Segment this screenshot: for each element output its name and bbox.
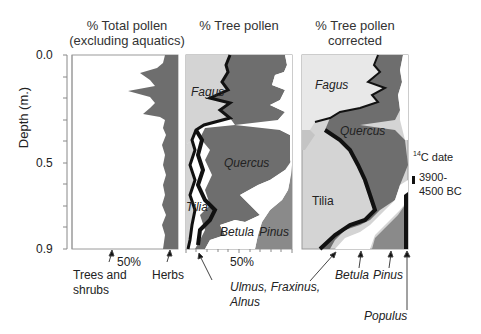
label-tilia-p2: Tilia (186, 200, 208, 214)
trees-line1: Trees and (73, 268, 127, 283)
label-herbs: Herbs (152, 268, 184, 282)
panel3-title: % Tree pollen corrected (298, 18, 412, 48)
panel-total-pollen (72, 55, 178, 249)
panel1-title-line2: (excluding aquatics) (62, 33, 192, 48)
y-tick-0: 0.0 (36, 48, 53, 62)
label-trees-shrubs: Trees and shrubs (73, 268, 127, 298)
x-label-50-panel2: 50% (230, 255, 254, 269)
y-axis-label: Depth (m.) (16, 83, 31, 153)
label-fagus-p2: Fagus (191, 85, 224, 99)
c14-text: C date (421, 151, 453, 163)
label-tilia-p3: Tilia (312, 194, 334, 208)
x-label-50-panel1: 50% (117, 255, 141, 269)
label-quercus-p2: Quercus (224, 156, 269, 170)
label-betula-bottom: Betula (335, 268, 369, 282)
label-fagus-p3: Fagus (315, 78, 348, 92)
panel3-title-line1: % Tree pollen (298, 18, 412, 33)
trees-line2: shrubs (73, 283, 127, 298)
y-tick-09: 0.9 (36, 242, 53, 256)
panel2-title: % Tree pollen (186, 18, 292, 33)
c14-superscript: 14 (413, 150, 421, 157)
date-marker (412, 176, 415, 184)
depth-axis (63, 55, 67, 249)
label-ulmus-fraxinus-alnus: Ulmus, Fraxinus, Alnus (230, 280, 320, 310)
panel1-title-line1: % Total pollen (62, 18, 192, 33)
ulmus-line2: Alnus (230, 295, 320, 310)
date-range-line2: 4500 BC (419, 184, 462, 198)
panel3-title-line2: corrected (298, 33, 412, 48)
panel1-title: % Total pollen (excluding aquatics) (62, 18, 192, 48)
c14-date-label: 14C date (413, 150, 453, 163)
label-betula-p2: Betula (220, 225, 254, 239)
label-quercus-p3: Quercus (340, 124, 385, 138)
label-pinus-bottom: Pinus (373, 268, 403, 282)
ulmus-line1: Ulmus, Fraxinus, (230, 280, 320, 295)
date-range: 3900- 4500 BC (419, 170, 462, 198)
label-pinus-p2: Pinus (259, 225, 289, 239)
y-tick-05: 0.5 (36, 156, 53, 170)
date-range-line1: 3900- (419, 170, 462, 184)
label-populus: Populus (364, 309, 407, 323)
